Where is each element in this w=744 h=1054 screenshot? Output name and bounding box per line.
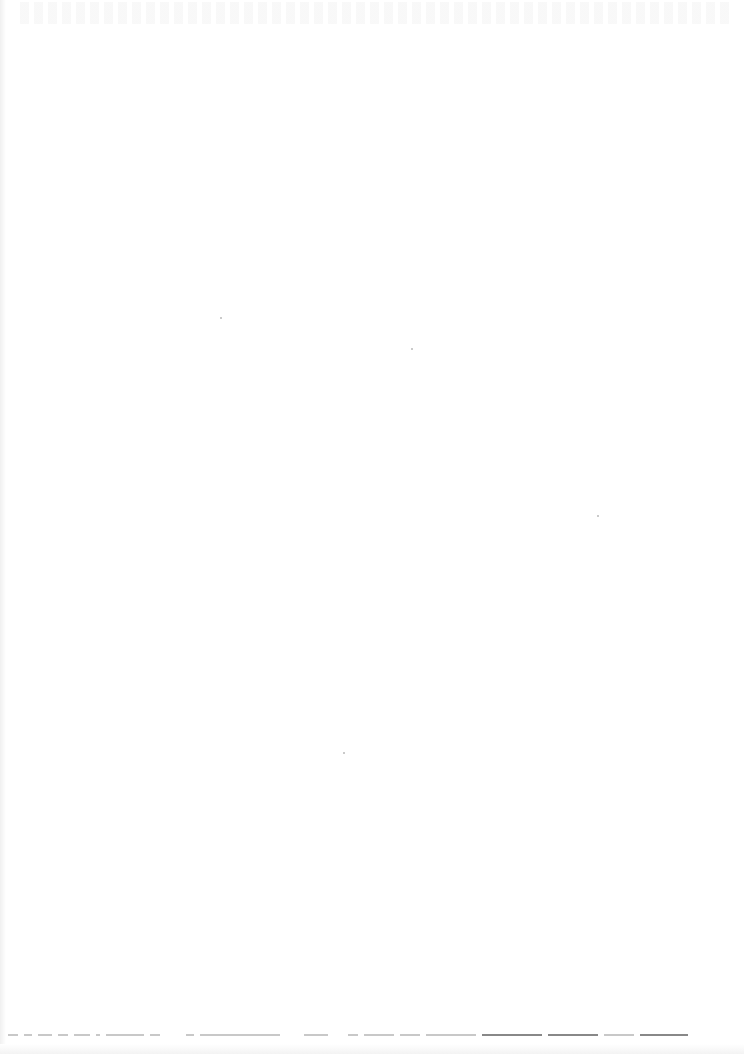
scan-speck xyxy=(411,348,413,350)
scan-speck xyxy=(343,752,345,754)
bleed-through-top xyxy=(20,2,730,24)
scan-speck xyxy=(220,317,222,319)
scan-speck xyxy=(597,515,599,517)
scan-bottom-edge xyxy=(0,1044,744,1054)
illegible-footer-text xyxy=(8,1031,744,1039)
scanned-page xyxy=(0,0,744,1054)
scan-edge-shadow xyxy=(0,0,6,1054)
